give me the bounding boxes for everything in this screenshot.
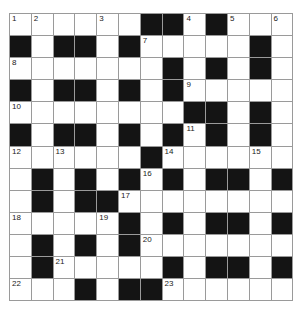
answer-cell[interactable] [54, 279, 76, 301]
answer-cell[interactable] [75, 147, 97, 169]
answer-cell[interactable] [75, 14, 97, 36]
answer-cell[interactable]: 10 [10, 102, 32, 124]
answer-cell[interactable] [32, 80, 54, 102]
answer-cell[interactable] [272, 235, 294, 257]
answer-cell[interactable] [97, 36, 119, 58]
answer-cell[interactable] [119, 102, 141, 124]
answer-cell[interactable]: 11 [184, 124, 206, 146]
answer-cell[interactable] [272, 36, 294, 58]
answer-cell[interactable] [10, 257, 32, 279]
answer-cell[interactable] [141, 80, 163, 102]
answer-cell[interactable] [184, 147, 206, 169]
answer-cell[interactable] [97, 80, 119, 102]
answer-cell[interactable]: 17 [119, 191, 141, 213]
answer-cell[interactable]: 22 [10, 279, 32, 301]
answer-cell[interactable] [184, 235, 206, 257]
answer-cell[interactable] [54, 191, 76, 213]
answer-cell[interactable] [250, 213, 272, 235]
answer-cell[interactable] [272, 191, 294, 213]
answer-cell[interactable] [272, 80, 294, 102]
answer-cell[interactable] [228, 58, 250, 80]
answer-cell[interactable] [228, 36, 250, 58]
answer-cell[interactable] [163, 36, 185, 58]
answer-cell[interactable] [163, 102, 185, 124]
answer-cell[interactable] [97, 124, 119, 146]
answer-cell[interactable] [272, 102, 294, 124]
answer-cell[interactable] [32, 124, 54, 146]
answer-cell[interactable]: 1 [10, 14, 32, 36]
answer-cell[interactable] [228, 235, 250, 257]
answer-cell[interactable] [184, 36, 206, 58]
answer-cell[interactable] [228, 124, 250, 146]
answer-cell[interactable] [97, 147, 119, 169]
answer-cell[interactable] [32, 58, 54, 80]
answer-cell[interactable] [54, 58, 76, 80]
answer-cell[interactable] [10, 191, 32, 213]
answer-cell[interactable] [32, 36, 54, 58]
answer-cell[interactable] [32, 102, 54, 124]
answer-cell[interactable] [97, 279, 119, 301]
answer-cell[interactable] [250, 279, 272, 301]
answer-cell[interactable]: 2 [32, 14, 54, 36]
answer-cell[interactable] [119, 58, 141, 80]
answer-cell[interactable] [97, 257, 119, 279]
answer-cell[interactable]: 9 [184, 80, 206, 102]
answer-cell[interactable] [141, 257, 163, 279]
answer-cell[interactable] [184, 279, 206, 301]
answer-cell[interactable] [10, 169, 32, 191]
answer-cell[interactable] [141, 191, 163, 213]
answer-cell[interactable] [163, 191, 185, 213]
answer-cell[interactable]: 6 [272, 14, 294, 36]
answer-cell[interactable] [75, 102, 97, 124]
answer-cell[interactable] [228, 191, 250, 213]
answer-cell[interactable] [97, 102, 119, 124]
answer-cell[interactable] [206, 279, 228, 301]
answer-cell[interactable] [54, 102, 76, 124]
answer-cell[interactable]: 4 [184, 14, 206, 36]
answer-cell[interactable] [184, 213, 206, 235]
answer-cell[interactable] [250, 235, 272, 257]
answer-cell[interactable] [141, 58, 163, 80]
answer-cell[interactable] [228, 102, 250, 124]
answer-cell[interactable] [54, 213, 76, 235]
answer-cell[interactable]: 12 [10, 147, 32, 169]
answer-cell[interactable] [97, 58, 119, 80]
answer-cell[interactable] [250, 257, 272, 279]
answer-cell[interactable] [163, 235, 185, 257]
answer-cell[interactable] [250, 169, 272, 191]
answer-cell[interactable] [206, 36, 228, 58]
answer-cell[interactable] [206, 235, 228, 257]
answer-cell[interactable] [250, 191, 272, 213]
answer-cell[interactable] [228, 147, 250, 169]
answer-cell[interactable] [54, 169, 76, 191]
answer-cell[interactable] [250, 80, 272, 102]
answer-cell[interactable] [119, 257, 141, 279]
answer-cell[interactable] [141, 124, 163, 146]
answer-cell[interactable]: 23 [163, 279, 185, 301]
answer-cell[interactable]: 16 [141, 169, 163, 191]
answer-cell[interactable]: 8 [10, 58, 32, 80]
answer-cell[interactable]: 13 [54, 147, 76, 169]
answer-cell[interactable] [141, 102, 163, 124]
answer-cell[interactable]: 21 [54, 257, 76, 279]
answer-cell[interactable]: 20 [141, 235, 163, 257]
answer-cell[interactable] [97, 235, 119, 257]
answer-cell[interactable]: 14 [163, 147, 185, 169]
answer-cell[interactable] [54, 14, 76, 36]
answer-cell[interactable] [54, 235, 76, 257]
answer-cell[interactable] [141, 213, 163, 235]
answer-cell[interactable] [184, 191, 206, 213]
answer-cell[interactable]: 18 [10, 213, 32, 235]
answer-cell[interactable] [119, 147, 141, 169]
answer-cell[interactable] [272, 58, 294, 80]
answer-cell[interactable]: 7 [141, 36, 163, 58]
answer-cell[interactable]: 15 [250, 147, 272, 169]
answer-cell[interactable] [272, 124, 294, 146]
answer-cell[interactable] [75, 58, 97, 80]
answer-cell[interactable] [184, 58, 206, 80]
answer-cell[interactable] [206, 80, 228, 102]
answer-cell[interactable] [75, 213, 97, 235]
answer-cell[interactable] [32, 279, 54, 301]
answer-cell[interactable] [272, 279, 294, 301]
answer-cell[interactable] [250, 14, 272, 36]
